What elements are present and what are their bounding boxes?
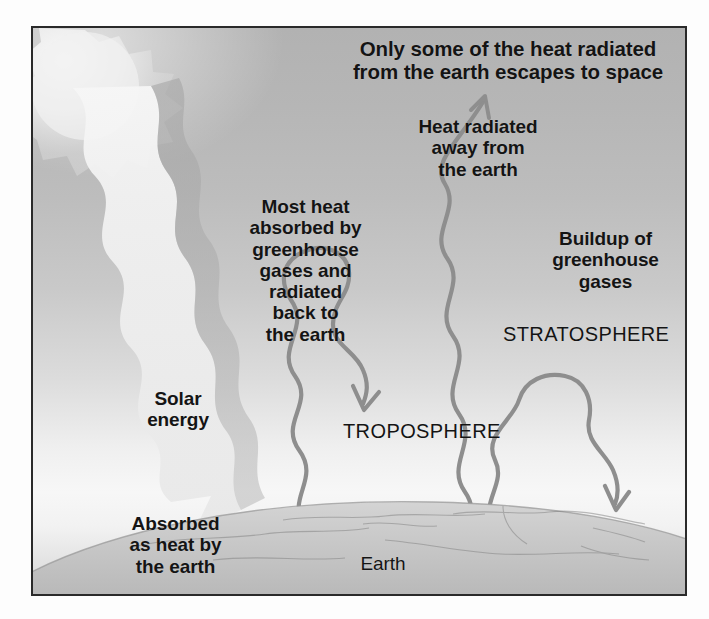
label-solar-energy: Solar energy <box>108 388 248 431</box>
heat-trapped-arrow <box>489 375 629 528</box>
label-most-heat-absorbed: Most heat absorbed by greenhouse gases a… <box>218 196 393 345</box>
label-escape-to-space: Only some of the heat radiated from the … <box>333 38 683 84</box>
label-buildup-of-greenhouse-gases: Buildup of greenhouse gases <box>513 228 687 292</box>
greenhouse-effect-figure: Only some of the heat radiated from the … <box>31 26 687 596</box>
label-troposphere: TROPOSPHERE <box>343 420 563 442</box>
label-heat-radiated-away: Heat radiated away from the earth <box>393 116 563 180</box>
label-absorbed-as-heat: Absorbed as heat by the earth <box>88 513 263 577</box>
label-earth: Earth <box>318 553 448 574</box>
label-stratosphere: STRATOSPHERE <box>503 323 687 345</box>
